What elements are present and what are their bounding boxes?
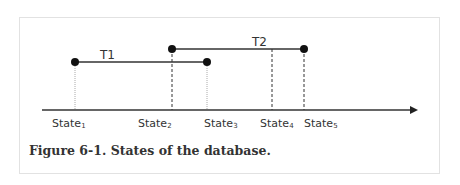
state2-label: State2 [138,117,172,130]
state1-label: State1 [52,117,86,130]
state3-label: State3 [204,117,238,130]
axis-arrow-icon [410,106,418,114]
t2-start-dot [168,45,176,53]
state4-label: State4 [260,117,294,130]
t1-end-dot [203,58,211,66]
state5-label: State5 [304,117,338,130]
t1-label: T1 [100,48,115,62]
t2-label: T2 [252,35,267,49]
figure-caption: Figure 6-1. States of the database. [29,143,271,158]
t2-end-dot [300,45,308,53]
t1-start-dot [71,58,79,66]
